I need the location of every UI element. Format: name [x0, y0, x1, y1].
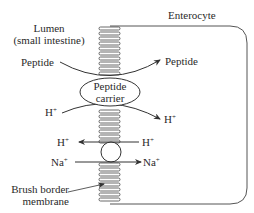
h-in-top-label: H+	[45, 106, 57, 118]
enterocyte-outline	[110, 26, 247, 204]
h-left-label: H+	[57, 136, 69, 148]
na-h-exchanger	[101, 142, 121, 162]
h-right-label: H+	[142, 136, 154, 148]
lumen-label: Lumen (small intestine)	[6, 22, 92, 46]
membrane-pointer	[68, 184, 104, 192]
peptide-out-label: Peptide	[165, 55, 198, 67]
peptide-in-label: Peptide	[21, 56, 54, 68]
microvilli-upper	[99, 27, 120, 75]
peptide-carrier-label: Peptide carrier	[82, 80, 138, 104]
microvilli-middle	[99, 110, 120, 143]
brush-border-label: Brush border membrane	[3, 183, 69, 207]
h-out-top-label: H+	[164, 113, 176, 125]
na-right-label: Na+	[143, 156, 160, 168]
enterocyte-label: Enterocyte	[168, 9, 216, 21]
na-left-label: Na+	[51, 156, 68, 168]
microvilli-lower	[99, 163, 120, 201]
